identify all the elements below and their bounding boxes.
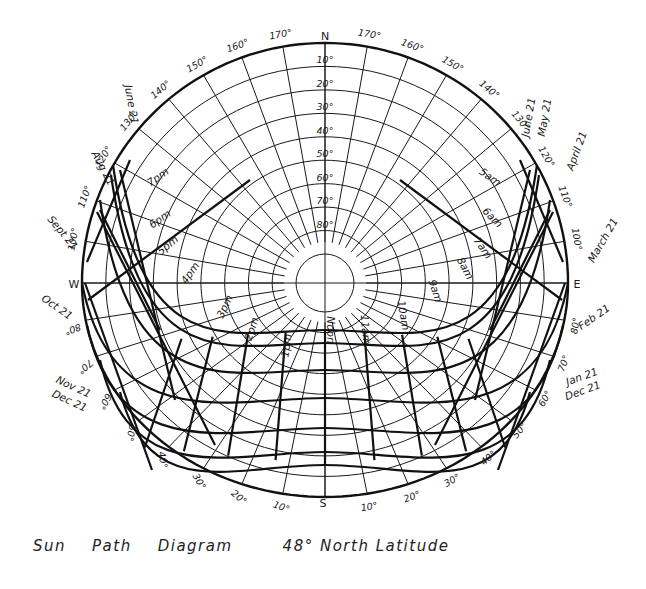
azimuth-line-350 [283, 47, 318, 243]
date-label-right-4: Feb 21 [576, 302, 612, 332]
azimuth-label-top-left-6: 110° [75, 184, 93, 209]
azimuth-line-130 [356, 308, 511, 420]
azimuth-line-20 [339, 57, 408, 244]
azimuth-line-320 [169, 99, 299, 252]
diagram-caption: SunPathDiagram48° North Latitude [33, 537, 475, 555]
azimuth-label-bottom-left-7: 10° [272, 499, 292, 515]
caption-word-sun: Sun [33, 537, 66, 555]
caption-latitude: 48° North Latitude [283, 537, 450, 555]
crossing-line-7 [435, 212, 553, 445]
azimuth-line-40 [351, 99, 481, 252]
hour-label-1pm: 1pm [278, 333, 293, 358]
azimuth-line-100 [365, 290, 564, 320]
altitude-label-60: 60° [317, 172, 334, 183]
azimuth-label-bottom-right-6: 20° [402, 488, 422, 504]
azimuth-label-top-right-7: 100° [570, 227, 585, 251]
azimuth-label-bottom-right-1: 70° [555, 353, 571, 373]
caption-word-path: Path [92, 537, 132, 555]
altitude-label-10: 10° [317, 54, 334, 65]
hour-label-5pm: 5pm [155, 233, 181, 257]
azimuth-label-top-right-2: 150° [440, 54, 465, 75]
west-label: W [69, 278, 80, 291]
altitude-label-40: 40° [317, 125, 334, 136]
azimuth-line-260 [86, 290, 285, 320]
azimuth-label-bottom-left-2: 60° [96, 392, 114, 412]
azimuth-label-top-left-0: 170° [268, 27, 292, 42]
altitude-label-30: 30° [317, 101, 334, 112]
caption-word-diagram: Diagram [158, 537, 233, 555]
azimuth-label-top-right-5: 120° [536, 144, 557, 169]
hour-label-7pm: 7pm [145, 165, 171, 188]
azimuth-label-top-left-2: 150° [184, 54, 209, 75]
azimuth-label-bottom-left-6: 20° [229, 487, 249, 506]
north-label: N [321, 30, 329, 43]
hour-label-noon: Noon [325, 316, 337, 343]
azimuth-label-bottom-right-2: 60° [536, 388, 554, 408]
crossing-line-0 [120, 170, 175, 400]
azimuth-label-bottom-left-1: 70° [76, 357, 96, 376]
hour-label-8am: 8am [455, 255, 477, 281]
azimuth-label-top-right-1: 160° [400, 36, 425, 54]
azimuth-label-bottom-left-4: 40° [156, 451, 170, 469]
east-label: E [574, 278, 581, 291]
hour-line-5 [364, 332, 374, 460]
hour-label-5am: 5am [477, 165, 503, 188]
date-label-left-3: Oct 21 [40, 292, 75, 322]
crossing-line-6 [475, 170, 530, 400]
azimuth-label-bottom-right-3: 50° [510, 420, 529, 440]
azimuth-label-bottom-left-3: 50° [124, 424, 138, 442]
altitude-label-70: 70° [317, 195, 334, 206]
azimuth-line-230 [139, 308, 294, 420]
azimuth-label-top-right-0: 170° [357, 27, 381, 42]
azimuth-line-50 [356, 129, 511, 257]
azimuth-label-bottom-right-5: 30° [442, 471, 462, 489]
altitude-label-50: 50° [317, 148, 334, 159]
azimuth-line-340 [242, 57, 311, 244]
azimuth-label-top-left-1: 160° [225, 36, 250, 54]
hour-label-4pm: 4pm [178, 260, 201, 286]
date-label-right-3: March 21 [585, 216, 620, 264]
south-label: S [320, 497, 327, 510]
hour-label-10am: 10am [395, 299, 412, 331]
azimuth-label-bottom-left-5: 30° [190, 471, 208, 491]
azimuth-line-10 [332, 47, 367, 243]
hour-label-2pm: 2pm [242, 316, 261, 342]
azimuth-line-310 [139, 129, 294, 257]
azimuth-label-bottom-right-7: 10° [360, 500, 378, 514]
date-label-right-2: April 21 [563, 129, 589, 172]
altitude-label-20: 20° [317, 78, 334, 89]
azimuth-label-top-right-6: 110° [556, 184, 574, 209]
altitude-label-80: 80° [317, 219, 334, 230]
azimuth-line-110 [363, 296, 553, 356]
date-label-right-1: May 21 [535, 97, 553, 137]
sun-path-diagram: NSWE10°20°30°40°50°60°70°80°170°160°150°… [0, 0, 646, 589]
azimuth-label-bottom-left-0: 80° [63, 322, 83, 338]
